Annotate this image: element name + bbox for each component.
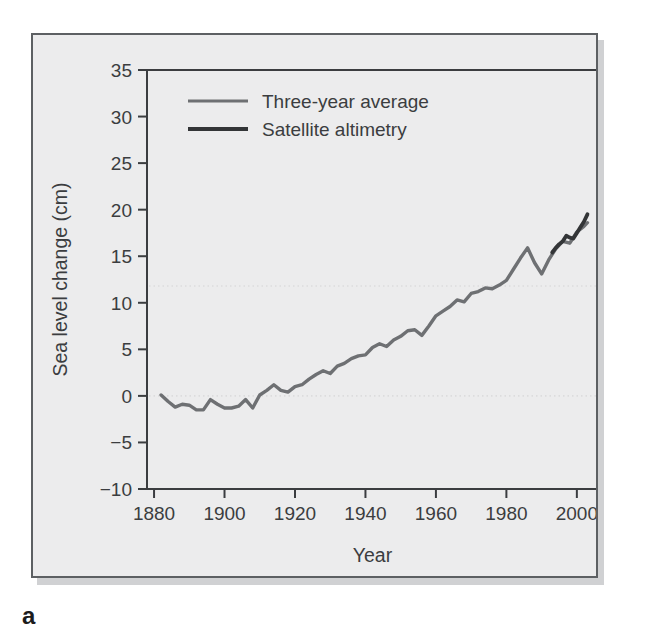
y-axis-title: Sea level change (cm) <box>49 182 71 376</box>
data-series-layer <box>161 214 587 410</box>
y-tick-label: 30 <box>111 107 132 128</box>
y-tick-label: 20 <box>111 200 132 221</box>
x-tick-label: 1880 <box>133 503 175 524</box>
series-line-three-year-average <box>161 223 587 410</box>
x-tick-label: 2000 <box>556 503 596 524</box>
reference-gridlines <box>149 286 596 396</box>
y-tick-label: 10 <box>111 293 132 314</box>
y-tick-label: 15 <box>111 246 132 267</box>
x-tick-label: 1940 <box>344 503 386 524</box>
x-tick-label: 1900 <box>203 503 245 524</box>
y-tick-label: 5 <box>121 339 132 360</box>
x-axis-title: Year <box>353 544 393 566</box>
y-tick-label: 25 <box>111 153 132 174</box>
legend-label: Three-year average <box>262 91 429 112</box>
legend-label: Satellite altimetry <box>262 119 407 140</box>
sea-level-chart: 1880190019201940196019802000 −10−5051015… <box>33 35 596 576</box>
series-line-satellite-altimetry <box>552 214 587 252</box>
y-tick-label: −10 <box>100 479 132 500</box>
x-tick-label: 1920 <box>274 503 316 524</box>
x-axis-ticks: 1880190019201940196019802000 <box>133 489 596 524</box>
panel-label: a <box>22 604 35 628</box>
chart-legend: Three-year averageSatellite altimetry <box>188 91 429 140</box>
x-tick-label: 1960 <box>415 503 457 524</box>
x-tick-label: 1980 <box>485 503 527 524</box>
y-tick-label: 35 <box>111 60 132 81</box>
figure-card: 1880190019201940196019802000 −10−5051015… <box>31 33 598 578</box>
y-axis-ticks: −10−505101520253035 <box>100 60 147 500</box>
y-tick-label: −5 <box>110 432 132 453</box>
y-tick-label: 0 <box>121 386 132 407</box>
